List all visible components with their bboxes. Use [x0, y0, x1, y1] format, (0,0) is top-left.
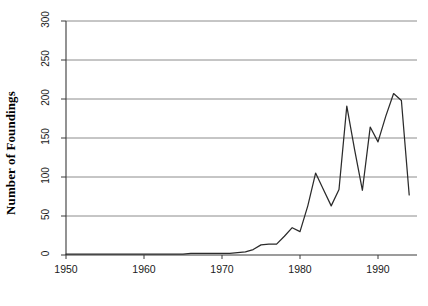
gridlines [66, 21, 417, 216]
x-tick-label: 1980 [280, 263, 320, 275]
y-tick-label: 300 [40, 5, 51, 35]
x-tick-label: 1960 [124, 263, 164, 275]
chart-container: Number of Foundings 050100150200250300 1… [0, 0, 428, 306]
plot-area [0, 0, 428, 306]
axis-ticks [61, 21, 378, 259]
y-tick-label: 200 [40, 83, 51, 113]
x-tick-label: 1990 [358, 263, 398, 275]
y-tick-label: 50 [40, 200, 51, 230]
y-tick-label: 250 [40, 44, 51, 74]
x-tick-label: 1970 [202, 263, 242, 275]
data-series-line [66, 94, 409, 255]
y-tick-label: 150 [40, 122, 51, 152]
x-tick-label: 1950 [46, 263, 86, 275]
y-tick-label: 100 [40, 161, 51, 191]
